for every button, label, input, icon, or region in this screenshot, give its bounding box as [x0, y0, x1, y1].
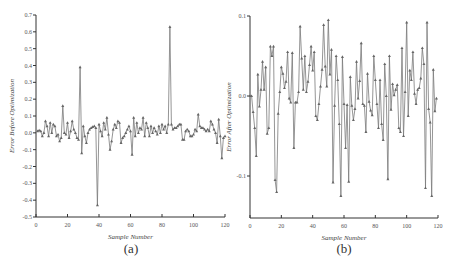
- y-tick-label: 0.1: [239, 13, 247, 19]
- triangle-marker-icon: [306, 80, 309, 83]
- triangle-marker-icon: [46, 125, 49, 128]
- triangle-marker-icon: [41, 135, 44, 138]
- triangle-marker-icon: [214, 131, 217, 134]
- triangle-marker-icon: [71, 119, 74, 122]
- triangle-marker-icon: [153, 126, 156, 129]
- triangle-marker-icon: [275, 190, 278, 193]
- y-tick-label: 0.2: [25, 96, 33, 102]
- triangle-marker-icon: [138, 126, 141, 129]
- triangle-marker-icon: [101, 135, 104, 138]
- y-tick-label: 0.5: [25, 46, 33, 52]
- triangle-marker-icon: [149, 125, 152, 128]
- triangle-marker-icon: [374, 78, 377, 81]
- triangle-marker-icon: [198, 125, 201, 128]
- triangle-marker-icon: [435, 97, 438, 100]
- triangle-marker-icon: [280, 66, 283, 69]
- triangle-marker-icon: [346, 103, 349, 106]
- triangle-marker-icon: [123, 135, 126, 138]
- triangle-marker-icon: [107, 133, 110, 136]
- triangle-marker-icon: [278, 90, 281, 93]
- triangle-marker-icon: [116, 119, 119, 122]
- triangle-marker-icon: [400, 46, 403, 49]
- triangle-marker-icon: [339, 194, 342, 197]
- triangle-marker-icon: [72, 128, 75, 131]
- triangle-marker-icon: [341, 55, 344, 58]
- triangle-marker-icon: [129, 130, 132, 133]
- triangle-marker-icon: [396, 83, 399, 86]
- triangle-marker-icon: [252, 110, 255, 113]
- triangle-marker-icon: [361, 102, 364, 105]
- triangle-marker-icon: [44, 119, 47, 122]
- triangle-marker-icon: [300, 57, 303, 60]
- triangle-marker-icon: [305, 90, 308, 93]
- triangle-marker-icon: [270, 54, 273, 57]
- triangle-marker-icon: [415, 102, 418, 105]
- triangle-marker-icon: [274, 178, 277, 181]
- triangle-marker-icon: [261, 60, 264, 63]
- triangle-marker-icon: [327, 18, 330, 21]
- triangle-marker-icon: [159, 131, 162, 134]
- x-tick-label: 120: [434, 223, 443, 229]
- y-tick-label: 0.1: [25, 113, 33, 119]
- triangle-marker-icon: [52, 123, 55, 126]
- triangle-marker-icon: [286, 50, 289, 53]
- triangle-marker-icon: [211, 123, 214, 126]
- triangle-marker-icon: [148, 135, 151, 138]
- triangle-marker-icon: [269, 45, 272, 48]
- x-tick-label: 100: [402, 223, 411, 229]
- y-axis-label: Error After Optimization: [225, 82, 233, 153]
- triangle-marker-icon: [338, 122, 341, 125]
- triangle-marker-icon: [79, 66, 82, 69]
- triangle-marker-icon: [413, 92, 416, 95]
- triangle-marker-icon: [126, 128, 129, 131]
- x-tick-label: 40: [96, 222, 102, 228]
- triangle-marker-icon: [302, 88, 305, 91]
- triangle-marker-icon: [98, 123, 101, 126]
- triangle-marker-icon: [134, 135, 137, 138]
- triangle-marker-icon: [407, 114, 410, 117]
- triangle-marker-icon: [96, 204, 99, 207]
- triangle-marker-icon: [206, 128, 209, 131]
- triangle-marker-icon: [375, 102, 378, 105]
- triangle-marker-icon: [313, 50, 316, 53]
- triangle-marker-icon: [156, 133, 159, 136]
- triangle-marker-icon: [162, 128, 165, 131]
- triangle-marker-icon: [364, 130, 367, 133]
- triangle-marker-icon: [219, 135, 222, 138]
- triangle-marker-icon: [314, 114, 317, 117]
- figure: -0.5-0.4-0.3-0.2-0.10.00.10.20.30.40.50.…: [0, 0, 452, 270]
- triangle-marker-icon: [433, 110, 436, 113]
- triangle-marker-icon: [382, 138, 385, 141]
- x-tick-label: 60: [341, 223, 347, 229]
- triangle-marker-icon: [422, 62, 425, 65]
- figure-caption: (a): [124, 241, 138, 256]
- triangle-marker-icon: [120, 141, 123, 144]
- triangle-marker-icon: [366, 72, 369, 75]
- triangle-marker-icon: [170, 123, 173, 126]
- triangle-marker-icon: [168, 25, 171, 28]
- triangle-marker-icon: [49, 121, 52, 124]
- triangle-marker-icon: [161, 123, 164, 126]
- triangle-marker-icon: [99, 130, 102, 133]
- triangle-marker-icon: [135, 121, 138, 124]
- triangle-marker-icon: [385, 94, 388, 97]
- triangle-marker-icon: [151, 131, 154, 134]
- triangle-marker-icon: [80, 151, 83, 154]
- triangle-marker-icon: [297, 90, 300, 93]
- triangle-marker-icon: [124, 131, 127, 134]
- triangle-marker-icon: [146, 126, 149, 129]
- y-tick-label: 0.4: [25, 63, 33, 69]
- triangle-marker-icon: [349, 75, 352, 78]
- triangle-marker-icon: [410, 78, 413, 81]
- triangle-marker-icon: [264, 66, 267, 69]
- triangle-marker-icon: [419, 77, 422, 80]
- triangle-marker-icon: [216, 141, 219, 144]
- triangle-marker-icon: [335, 54, 338, 57]
- triangle-marker-icon: [429, 121, 432, 124]
- y-tick-label: 0.3: [25, 79, 33, 85]
- triangle-marker-icon: [253, 126, 256, 129]
- triangle-marker-icon: [285, 80, 288, 83]
- triangle-marker-icon: [332, 181, 335, 184]
- triangle-marker-icon: [310, 45, 313, 48]
- triangle-marker-icon: [82, 125, 85, 128]
